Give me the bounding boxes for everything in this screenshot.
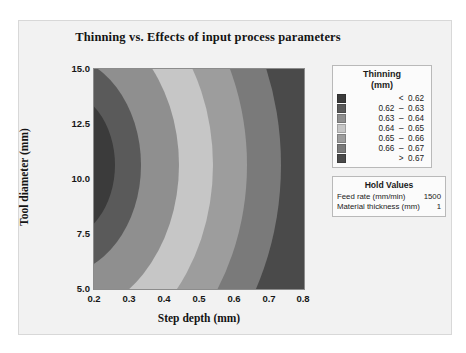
legend-unit: (mm) xyxy=(333,80,431,91)
hold-value-name: Feed rate (mm/min) xyxy=(337,192,405,202)
x-tick-0.2: 0.2 xyxy=(79,293,109,304)
legend-label: 0.66 – 0.67 xyxy=(346,144,426,153)
hold-value-number: 1 xyxy=(431,202,441,212)
legend-row: 0.64 – 0.65 xyxy=(333,123,431,133)
legend-label: 0.65 – 0.66 xyxy=(346,134,426,143)
legend-label: < 0.62 xyxy=(346,94,426,103)
y-tick-7.5: 7.5 xyxy=(56,228,90,239)
hold-value-number: 1500 xyxy=(418,192,441,202)
y-tick-15.0: 15.0 xyxy=(56,63,90,74)
figure-canvas: Thinning vs. Effects of input process pa… xyxy=(0,0,466,353)
legend-row: 0.62 – 0.63 xyxy=(333,103,431,113)
hold-values-box: Hold Values Feed rate (mm/min)1500Materi… xyxy=(332,176,446,217)
legend-swatch xyxy=(337,134,346,143)
legend-label: 0.63 – 0.64 xyxy=(346,114,426,123)
legend-row: 0.63 – 0.64 xyxy=(333,113,431,123)
hold-value-row: Feed rate (mm/min)1500 xyxy=(337,192,441,202)
legend-swatch xyxy=(337,94,346,103)
legend-box: Thinning (mm) < 0.620.62 – 0.630.63 – 0.… xyxy=(332,65,432,168)
contour-plot-area xyxy=(93,68,305,290)
legend-swatch xyxy=(337,114,346,123)
x-tick-0.7: 0.7 xyxy=(254,293,284,304)
legend-label: > 0.67 xyxy=(346,154,426,163)
legend-label: 0.64 – 0.65 xyxy=(346,124,426,133)
hold-value-name: Material thickness (mm) xyxy=(337,202,420,212)
legend-row: 0.66 – 0.67 xyxy=(333,143,431,153)
legend-swatch xyxy=(337,144,346,153)
x-axis-label: Step depth (mm) xyxy=(93,312,305,324)
x-tick-0.6: 0.6 xyxy=(219,293,249,304)
x-axis-ticks: 0.2 0.3 0.4 0.5 0.6 0.7 0.8 xyxy=(0,293,466,307)
hold-value-row: Material thickness (mm)1 xyxy=(337,202,441,212)
x-tick-0.4: 0.4 xyxy=(149,293,179,304)
legend-row: < 0.62 xyxy=(333,93,431,103)
legend-label: 0.62 – 0.63 xyxy=(346,104,426,113)
y-tick-12.5: 12.5 xyxy=(56,118,90,129)
hold-values-title: Hold Values xyxy=(337,180,441,190)
legend-swatch xyxy=(337,124,346,133)
x-tick-0.5: 0.5 xyxy=(184,293,214,304)
contour-bands xyxy=(93,68,305,290)
x-tick-0.3: 0.3 xyxy=(114,293,144,304)
legend-title: Thinning xyxy=(333,69,431,80)
legend-row: 0.65 – 0.66 xyxy=(333,133,431,143)
contour-svg xyxy=(93,68,305,290)
y-tick-10.0: 10.0 xyxy=(56,173,90,184)
legend-swatch xyxy=(337,104,346,113)
hold-values-rows: Feed rate (mm/min)1500Material thickness… xyxy=(337,192,441,212)
legend-row: > 0.67 xyxy=(333,153,431,163)
legend-entries: < 0.620.62 – 0.630.63 – 0.640.64 – 0.650… xyxy=(333,93,431,163)
x-tick-0.8: 0.8 xyxy=(288,293,318,304)
y-axis-label: Tool diameter (mm) xyxy=(18,87,30,267)
legend-swatch xyxy=(337,154,346,163)
